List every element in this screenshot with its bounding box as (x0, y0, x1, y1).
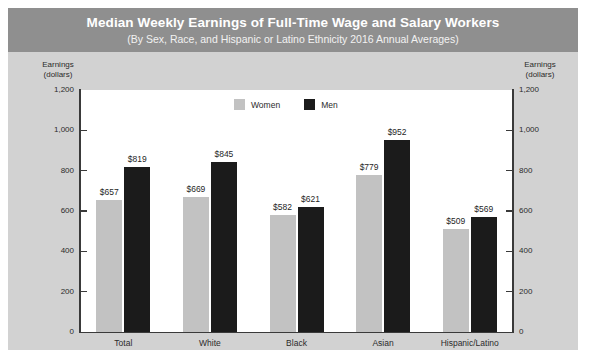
bar-value-label: $952 (378, 127, 416, 137)
bar-value-label: $779 (350, 162, 388, 172)
y-tick-label-left: 800 (34, 166, 74, 176)
bar-black-men (298, 207, 324, 332)
chart-subtitle: (By Sex, Race, and Hispanic or Latino Et… (127, 32, 458, 46)
y-tick-label-right: 200 (519, 287, 559, 297)
y-axis-caption-right-line2: (dollars) (512, 70, 568, 80)
bar-asian-women (356, 175, 382, 332)
bar-black-women (270, 215, 296, 332)
y-tick-label-left: 200 (34, 287, 74, 297)
bar-value-label: $569 (465, 204, 503, 214)
y-axis-caption-right-line1: Earnings (512, 60, 568, 70)
y-axis-caption-left: Earnings (dollars) (32, 60, 84, 80)
x-category-label: Total (73, 338, 173, 348)
bar-value-label: $669 (177, 184, 215, 194)
y-tick-label-left: 1,200 (34, 85, 74, 95)
bar-value-label: $621 (292, 194, 330, 204)
bar-hispanic-latino-women (443, 229, 469, 332)
y-tick-label-right: 600 (519, 206, 559, 216)
y-tick-label-right: 800 (519, 166, 559, 176)
x-category-label: Asian (333, 338, 433, 348)
y-tick-label-right: 400 (519, 246, 559, 256)
x-category-label: Black (247, 338, 347, 348)
bar-hispanic-latino-men (471, 217, 497, 332)
bar-value-label: $657 (90, 187, 128, 197)
chart-root: Median Weekly Earnings of Full-Time Wage… (0, 0, 590, 361)
y-tick-label-left: 0 (34, 327, 74, 337)
x-category-label: Hispanic/Latino (420, 338, 520, 348)
y-tick-label-left: 600 (34, 206, 74, 216)
y-tick-label-right: 0 (519, 327, 559, 337)
bar-value-label: $819 (118, 154, 156, 164)
bar-value-label: $845 (205, 149, 243, 159)
y-tick-label-right: 1,000 (519, 125, 559, 135)
y-axis-caption-right: Earnings (dollars) (512, 60, 568, 80)
y-tick-label-left: 1,000 (34, 125, 74, 135)
y-axis-caption-left-line2: (dollars) (32, 70, 84, 80)
x-category-label: White (160, 338, 260, 348)
title-banner: Median Weekly Earnings of Full-Time Wage… (8, 8, 578, 52)
chart-title: Median Weekly Earnings of Full-Time Wage… (87, 15, 500, 31)
y-tick-label-right: 1,200 (519, 85, 559, 95)
bar-white-women (183, 197, 209, 332)
y-tick-label-left: 400 (34, 246, 74, 256)
y-axis-caption-left-line1: Earnings (32, 60, 84, 70)
bar-value-label: $509 (437, 216, 475, 226)
bar-total-women (96, 200, 122, 332)
